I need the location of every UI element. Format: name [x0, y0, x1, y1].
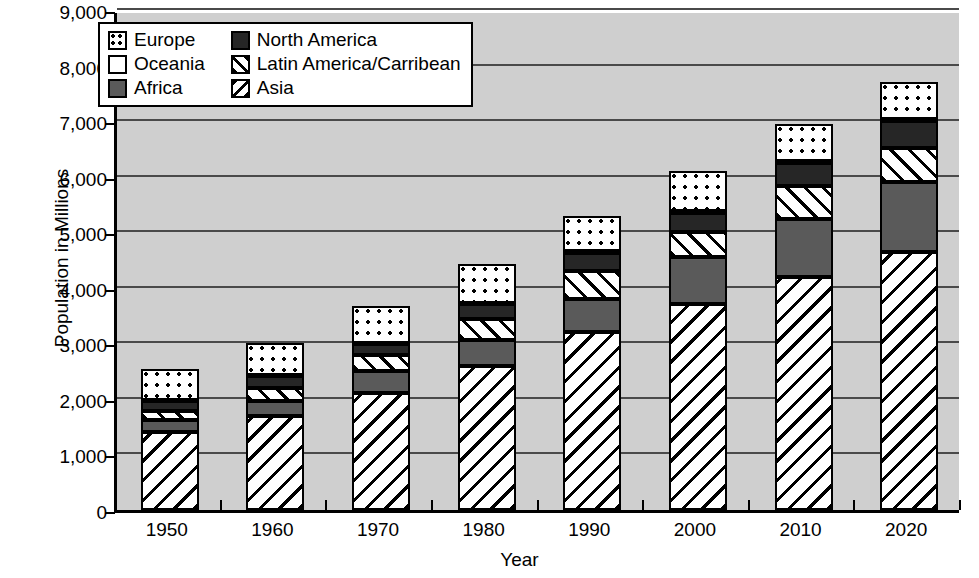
gridline — [117, 8, 959, 10]
legend-label: Africa — [134, 77, 183, 98]
bar-segment-asia — [352, 393, 410, 510]
x-axis-tick-mark — [748, 500, 750, 510]
legend-label: Asia — [257, 77, 294, 98]
bar-segment-north-america — [669, 213, 727, 232]
x-axis-tick-mark — [853, 500, 855, 510]
legend-item: Oceania — [108, 52, 205, 76]
bar-segment-north-america — [880, 121, 938, 148]
bar-segment-africa — [775, 219, 833, 276]
gridline — [117, 452, 959, 454]
x-axis-tick-label: 2000 — [640, 519, 750, 541]
bar-segment-asia — [141, 432, 199, 510]
bar-segment-africa — [141, 420, 199, 432]
bar-segment-africa — [246, 401, 304, 415]
bar-segment-north-america — [141, 401, 199, 411]
x-axis-tick-mark — [537, 500, 539, 510]
gridline — [117, 119, 959, 121]
bar-segment-europe — [563, 216, 621, 252]
legend-item: North America — [231, 28, 461, 52]
bar-segment-latin-america-carribean — [669, 232, 727, 257]
bar-segment-africa — [669, 257, 727, 304]
bar-segment-latin-america-carribean — [880, 148, 938, 182]
bar-segment-latin-america-carribean — [246, 388, 304, 401]
bar-segment-latin-america-carribean — [141, 411, 199, 420]
asia-swatch-icon — [231, 79, 250, 98]
legend-item: Latin America/Carribean — [231, 52, 461, 76]
legend-row: EuropeNorth America — [108, 28, 461, 52]
bar-segment-latin-america-carribean — [458, 319, 516, 340]
x-axis-tick-label: 1960 — [217, 519, 327, 541]
bar-segment-latin-america-carribean — [352, 355, 410, 371]
x-axis-tick-label: 2010 — [746, 519, 856, 541]
gridline — [117, 230, 959, 232]
africa-swatch-icon — [108, 79, 127, 98]
legend-table: EuropeNorth AmericaOceaniaLatin America/… — [108, 28, 461, 100]
legend-label: North America — [257, 29, 377, 50]
x-axis-tick-mark — [431, 500, 433, 510]
bar-segment-asia — [669, 304, 727, 510]
bar-segment-north-america — [352, 344, 410, 355]
north-america-swatch-icon — [231, 31, 250, 50]
legend-column-gap — [205, 28, 231, 52]
bar-segment-europe — [141, 369, 199, 400]
x-axis-tick-label: 2020 — [851, 519, 961, 541]
x-axis-tick-mark — [959, 500, 961, 510]
bar-segment-north-america — [246, 376, 304, 388]
bar-segment-europe — [246, 343, 304, 375]
oceania-swatch-icon — [108, 55, 127, 74]
bar-segment-africa — [458, 340, 516, 366]
europe-swatch-icon — [108, 31, 127, 50]
bar-segment-latin-america-carribean — [563, 271, 621, 299]
bar-segment-europe — [880, 82, 938, 119]
bar-segment-latin-america-carribean — [775, 186, 833, 219]
bar-segment-asia — [458, 366, 516, 510]
bar-segment-europe — [458, 264, 516, 303]
gridline — [117, 286, 959, 288]
gridline — [117, 341, 959, 343]
bar-segment-europe — [775, 124, 833, 161]
x-axis-tick-label: 1980 — [429, 519, 539, 541]
legend-row: OceaniaLatin America/Carribean — [108, 52, 461, 76]
y-axis-ticks: 01,0002,0003,0004,0005,0006,0007,0008,00… — [0, 0, 114, 578]
legend-item: Asia — [231, 76, 461, 100]
x-axis-tick-mark — [114, 500, 116, 510]
legend-item: Europe — [108, 28, 205, 52]
legend-column-gap — [205, 52, 231, 76]
bar-segment-north-america — [775, 163, 833, 186]
legend-label: Oceania — [134, 53, 205, 74]
bar-segment-asia — [246, 416, 304, 510]
x-axis-tick-label: 1990 — [534, 519, 644, 541]
x-axis-title: Year — [60, 549, 979, 571]
chart-canvas: Population in Millions 01,0002,0003,0004… — [0, 0, 979, 578]
bar-segment-africa — [880, 182, 938, 251]
legend-item: Africa — [108, 76, 205, 100]
bar-segment-africa — [563, 299, 621, 332]
x-axis-tick-label: 1950 — [112, 519, 222, 541]
legend-label: Europe — [134, 29, 195, 50]
x-axis-tick-mark — [325, 500, 327, 510]
bar-segment-north-america — [563, 253, 621, 271]
legend-row: AfricaAsia — [108, 76, 461, 100]
bar-segment-north-america — [458, 304, 516, 319]
gridline — [117, 397, 959, 399]
bar-segment-asia — [563, 332, 621, 510]
bar-segment-asia — [880, 252, 938, 510]
gridline — [117, 175, 959, 177]
bar-segment-europe — [669, 171, 727, 211]
bar-segment-asia — [775, 277, 833, 510]
x-axis-tick-mark — [642, 500, 644, 510]
legend-label: Latin America/Carribean — [257, 53, 461, 74]
x-axis-tick-mark — [220, 500, 222, 510]
latin-america-swatch-icon — [231, 55, 250, 74]
bar-segment-africa — [352, 371, 410, 393]
legend-column-gap — [205, 76, 231, 100]
x-axis-tick-label: 1970 — [323, 519, 433, 541]
legend: EuropeNorth AmericaOceaniaLatin America/… — [98, 22, 473, 107]
bar-segment-europe — [352, 306, 410, 343]
